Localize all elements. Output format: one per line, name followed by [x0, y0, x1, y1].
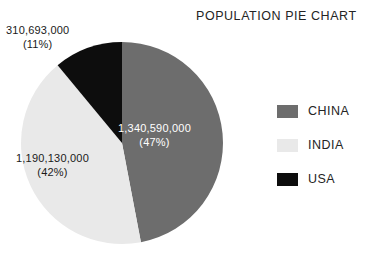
legend-label-china: CHINA [308, 104, 349, 118]
slice-percent-india: (42%) [16, 166, 89, 180]
slice-value-china: 1,340,590,000 [118, 122, 191, 136]
legend-label-usa: USA [308, 172, 335, 186]
pie-graphic: 1,340,590,000 (47%) 1,190,130,000 (42%) … [0, 0, 250, 264]
legend-item-india: INDIA [277, 138, 363, 152]
chart-legend: CHINA INDIA USA [277, 104, 363, 186]
legend-swatch-china-icon [277, 105, 298, 118]
legend-item-china: CHINA [277, 104, 363, 118]
legend-label-india: INDIA [308, 138, 344, 152]
slice-percent-usa: (11%) [6, 38, 69, 52]
legend-swatch-india-icon [277, 139, 298, 152]
pie-chart-figure: POPULATION PIE CHART 1,340,590,000 (47%)… [0, 0, 366, 264]
slice-value-india: 1,190,130,000 [16, 152, 89, 166]
legend-item-usa: USA [277, 172, 363, 186]
slice-label-usa: 310,693,000 (11%) [6, 24, 69, 51]
legend-swatch-usa-icon [277, 173, 298, 186]
slice-percent-china: (47%) [118, 136, 191, 150]
slice-value-usa: 310,693,000 [6, 24, 69, 38]
slice-label-india: 1,190,130,000 (42%) [16, 152, 89, 179]
slice-label-china: 1,340,590,000 (47%) [118, 122, 191, 149]
